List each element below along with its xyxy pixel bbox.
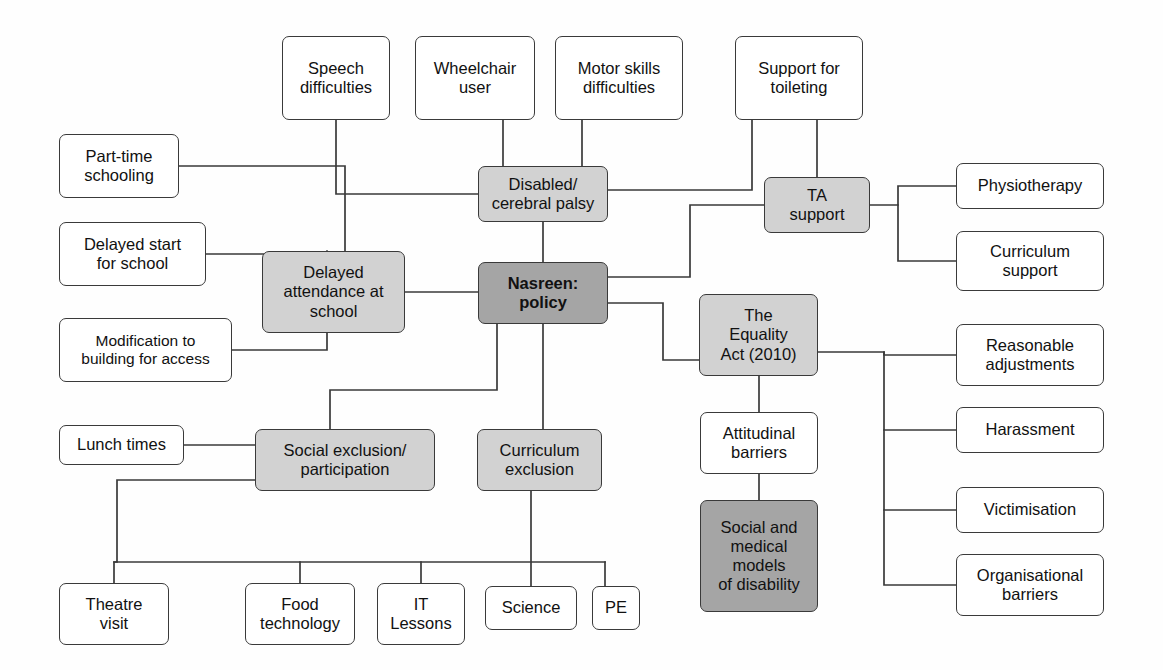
node-label: Curriculum exclusion <box>500 441 580 479</box>
node-label: The Equality Act (2010) <box>720 306 796 363</box>
node-label: Motor skills difficulties <box>578 59 661 97</box>
node-disabled-cerebral-palsy[interactable]: Disabled/ cerebral palsy <box>478 166 608 222</box>
edge-socialexc-theatre <box>114 480 255 583</box>
node-theatre-visit[interactable]: Theatre visit <box>59 583 169 645</box>
node-label: Delayed start for school <box>84 235 181 273</box>
node-reasonable-adjustments[interactable]: Reasonable adjustments <box>956 324 1104 386</box>
node-harassment[interactable]: Harassment <box>956 407 1104 453</box>
node-label: Social exclusion/ participation <box>284 441 407 479</box>
node-part-time-schooling[interactable]: Part-time schooling <box>59 134 179 198</box>
node-wheelchair-user[interactable]: Wheelchair user <box>415 36 535 120</box>
node-food-technology[interactable]: Food technology <box>245 583 355 645</box>
node-label: Part-time schooling <box>84 147 154 185</box>
concept-map-canvas: Speech difficulties Wheelchair user Moto… <box>0 0 1163 670</box>
node-lunch-times[interactable]: Lunch times <box>59 425 184 465</box>
node-label: Disabled/ cerebral palsy <box>492 175 595 213</box>
node-speech-difficulties[interactable]: Speech difficulties <box>282 36 390 120</box>
edge-equality-organisational <box>884 510 956 585</box>
node-label: Support for toileting <box>758 59 840 97</box>
node-label: Delayed attendance at school <box>284 263 384 320</box>
node-motor-skills-difficulties[interactable]: Motor skills difficulties <box>555 36 683 120</box>
node-pe[interactable]: PE <box>592 586 640 630</box>
node-label: Harassment <box>986 420 1075 439</box>
node-label: IT Lessons <box>390 595 451 633</box>
node-attitudinal-barriers[interactable]: Attitudinal barriers <box>700 412 818 474</box>
node-label: Speech difficulties <box>300 59 372 97</box>
node-label: Theatre visit <box>86 595 143 633</box>
node-label: Modification to building for access <box>81 332 209 368</box>
node-support-for-toileting[interactable]: Support for toileting <box>735 36 863 120</box>
node-label: Nasreen: policy <box>508 274 579 312</box>
node-label: Organisational barriers <box>977 566 1083 604</box>
edge-ta-currsupport <box>898 205 956 261</box>
node-label: Curriculum support <box>990 242 1070 280</box>
node-ta-support[interactable]: TA support <box>764 177 870 233</box>
node-label: PE <box>605 598 627 617</box>
node-curriculum-support[interactable]: Curriculum support <box>956 231 1104 291</box>
node-label: Victimisation <box>984 500 1076 519</box>
node-label: TA support <box>789 186 844 224</box>
node-physiotherapy[interactable]: Physiotherapy <box>956 163 1104 209</box>
edge-equality-reasonable <box>818 352 956 355</box>
node-label: Reasonable adjustments <box>986 336 1075 374</box>
node-nasreen-policy[interactable]: Nasreen: policy <box>478 262 608 324</box>
node-label: Attitudinal barriers <box>723 424 795 462</box>
node-science[interactable]: Science <box>485 586 577 630</box>
edge-ta-nasreen <box>608 205 764 277</box>
node-victimisation[interactable]: Victimisation <box>956 487 1104 533</box>
node-label: Lunch times <box>77 435 166 454</box>
node-curriculum-exclusion[interactable]: Curriculum exclusion <box>477 429 602 491</box>
edge-ta-physio <box>870 186 956 205</box>
node-label: Social and medical models of disability <box>718 518 800 595</box>
edge-modification-delayedatt <box>232 333 327 350</box>
edge-nasreen-socialexc <box>330 324 497 429</box>
node-the-equality-act-2010[interactable]: The Equality Act (2010) <box>699 294 818 376</box>
node-label: Food technology <box>260 595 340 633</box>
node-social-exclusion-participation[interactable]: Social exclusion/ participation <box>255 429 435 491</box>
node-label: Science <box>502 598 561 617</box>
node-social-and-medical-models-of-disability[interactable]: Social and medical models of disability <box>700 500 818 612</box>
node-it-lessons[interactable]: IT Lessons <box>377 583 465 645</box>
edge-equality-harassment <box>884 352 956 430</box>
edge-speech-disabled <box>336 120 478 194</box>
node-organisational-barriers[interactable]: Organisational barriers <box>956 554 1104 616</box>
edge-nasreen-equality <box>608 303 699 360</box>
edge-toileting-disabled <box>608 120 752 190</box>
node-delayed-attendance-at-school[interactable]: Delayed attendance at school <box>262 251 405 333</box>
edge-equality-victimisation <box>884 430 956 510</box>
node-label: Wheelchair user <box>434 59 517 97</box>
node-modification-to-building-for-access[interactable]: Modification to building for access <box>59 318 232 382</box>
node-delayed-start-for-school[interactable]: Delayed start for school <box>59 222 206 286</box>
node-label: Physiotherapy <box>978 176 1083 195</box>
